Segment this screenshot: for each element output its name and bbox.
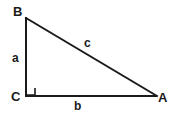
side-label-a: a <box>12 52 19 64</box>
side-label-b: b <box>74 100 81 112</box>
vertex-label-b: B <box>13 5 22 18</box>
right-angle-marker-icon <box>27 88 35 95</box>
vertex-label-c: C <box>11 90 20 103</box>
triangle-drawing <box>0 0 178 117</box>
side-c-hypotenuse-line <box>26 18 157 96</box>
right-triangle-figure: B C A a b c <box>0 0 178 117</box>
vertex-label-a: A <box>158 91 167 104</box>
side-label-c: c <box>84 37 91 49</box>
